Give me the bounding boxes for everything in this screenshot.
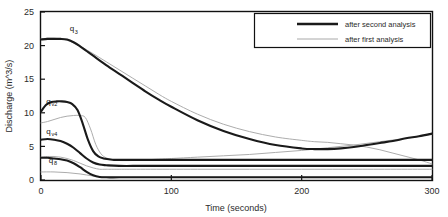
curve-label-qv2: q [46,97,50,106]
chart-figure: 0510152025 0100200300 Discharge (m^3/s) … [0,0,448,217]
x-tick-label-100: 100 [164,186,179,196]
y-tick-label-5: 5 [29,142,34,152]
x-tick-label-0: 0 [38,186,43,196]
legend-label-after-second-analysis: after second analysis [345,20,416,29]
curve-label-subscript-v4: v4 [51,131,57,137]
y-tick-label-25: 25 [24,7,34,17]
curve-label-subscript-v2: v2 [51,101,57,107]
legend-label-after-first-analysis: after first analysis [345,35,404,44]
y-tick-label-15: 15 [24,74,34,84]
curve-label-subscript-8: 8 [54,160,57,166]
y-tick-label-10: 10 [24,108,34,118]
x-tick-label-200: 200 [294,186,309,196]
curve-label-subscript-3: 3 [75,29,78,35]
y-tick-label-0: 0 [29,175,34,185]
curve-label-q8: q [49,156,53,165]
chart-background [0,0,448,217]
discharge-vs-time-chart: 0510152025 0100200300 Discharge (m^3/s) … [0,0,448,217]
x-axis-title: Time (seconds) [205,203,267,213]
x-tick-label-300: 300 [424,186,439,196]
y-tick-label-20: 20 [24,41,34,51]
curve-label-q3: q [70,24,74,33]
curve-label-qv4: q [46,127,50,136]
y-axis-title: Discharge (m^3/s) [4,60,14,133]
